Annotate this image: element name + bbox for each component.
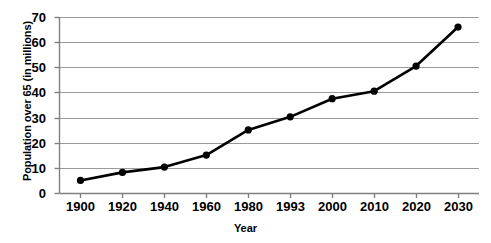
x-axis-tick-labels: 1900192019401960198019932000201020202030: [0, 0, 491, 243]
x-axis-title: Year: [0, 222, 491, 234]
x-axis-tick-label: 2030: [433, 200, 485, 213]
line-chart: Population over 65 (in millions) 0102030…: [0, 0, 491, 243]
